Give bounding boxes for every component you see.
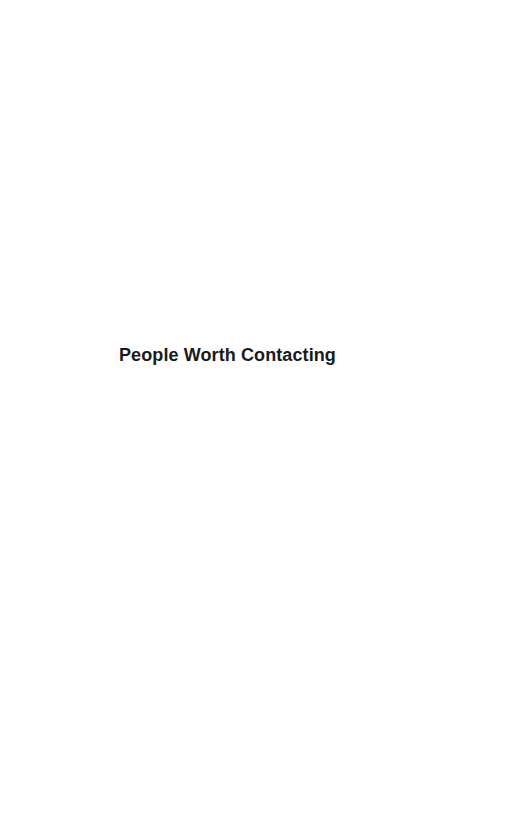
section-title: People Worth Contacting	[119, 344, 336, 366]
document-page: People Worth Contacting	[0, 0, 515, 833]
